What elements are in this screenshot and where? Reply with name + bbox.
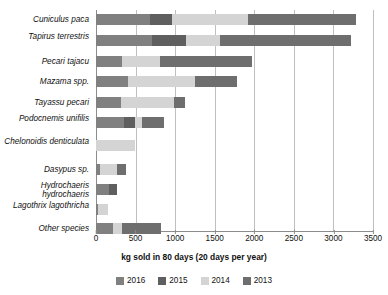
bar-segment-2014 [172,14,248,25]
bar-segment-2016 [96,14,150,25]
stacked-bar [96,164,126,175]
bar-segment-2016 [96,76,128,87]
bar-row [96,117,373,128]
bar-row [96,184,373,195]
category-label: Chelonoidis denticulata [0,137,89,146]
bar-segment-2016 [96,35,152,46]
legend-item-2015[interactable]: 2015 [158,276,187,285]
x-tick-labels: 0500100015002000250030003500 [0,234,388,248]
bar-segment-2014 [122,56,160,67]
x-tick-0: 0 [94,234,99,243]
stacked-bar-chart: Cuniculus pacaTapirus terrestrisPecari t… [0,0,388,295]
bar-segment-2016 [96,117,124,128]
tick-mark [175,230,176,234]
stacked-bar [96,14,356,25]
bar-segment-2014 [100,164,117,175]
x-axis-title: kg sold in 80 days (20 days per year) [0,252,388,262]
tick-mark [254,230,255,234]
chart-legend: 2016201520142013 [0,276,388,285]
stacked-bar [96,56,252,67]
bar-segment-2016 [96,56,122,67]
tick-mark [215,230,216,234]
bar-segment-2015 [152,35,186,46]
tick-mark [333,230,334,234]
stacked-bar [96,223,161,234]
bar-segment-2016 [96,97,121,108]
x-tick-1000: 1000 [166,234,184,243]
bar-rows [96,10,373,232]
bar-segment-2013 [195,76,238,87]
bar-segment-2013 [220,35,351,46]
bar-row [96,223,373,234]
bar-row [96,140,373,151]
bar-segment-2014 [98,204,108,215]
legend-label: 2014 [212,276,230,285]
category-label: Cuniculus paca [0,15,89,24]
bar-segment-2015 [109,184,117,195]
x-tick-1500: 1500 [206,234,224,243]
stacked-bar [96,204,108,215]
bar-segment-2014 [128,76,195,87]
category-label: Other species [0,224,89,233]
legend-swatch-2016 [116,277,124,285]
bar-segment-2014 [121,97,173,108]
category-label: Hydrochaeris hydrochaeris [0,181,89,199]
bar-segment-2013 [248,14,356,25]
legend-swatch-2015 [158,277,166,285]
category-axis-labels: Cuniculus pacaTapirus terrestrisPecari t… [0,10,93,232]
legend-label: 2015 [169,276,187,285]
legend-swatch-2013 [243,277,251,285]
legend-swatch-2014 [201,277,209,285]
category-label: Lagothrix lagothricha [0,201,89,210]
category-label: Mazama spp. [0,77,89,86]
bar-row [96,76,373,87]
bar-segment-2014 [186,35,220,46]
x-tick-2000: 2000 [245,234,263,243]
bar-segment-2013 [142,117,163,128]
bar-segment-2014 [96,140,135,151]
stacked-bar [96,76,237,87]
stacked-bar [96,117,164,128]
bar-segment-2016 [96,184,109,195]
category-label: Podocnemis unifilis [0,114,89,123]
legend-item-2014[interactable]: 2014 [201,276,230,285]
category-label: Tayassu pecari [0,98,89,107]
bar-row [96,97,373,108]
tick-mark [373,230,374,234]
bar-row [96,14,373,25]
x-tick-3500: 3500 [364,234,382,243]
x-tick-500: 500 [129,234,143,243]
bar-row [96,35,373,46]
bar-segment-2015 [150,14,172,25]
legend-label: 2016 [127,276,145,285]
bar-segment-2013 [174,97,186,108]
category-label: Tapirus terrestris [0,32,89,41]
tick-mark [136,230,137,234]
bar-segment-2015 [124,117,135,128]
stacked-bar [96,140,135,151]
bar-row [96,164,373,175]
tick-mark [294,230,295,234]
bar-segment-2014 [113,223,122,234]
bar-segment-2013 [122,223,161,234]
category-label: Dasypus sp. [0,165,89,174]
stacked-bar [96,35,351,46]
bar-row [96,56,373,67]
bar-row [96,204,373,215]
gridline-3500 [373,10,374,232]
legend-item-2013[interactable]: 2013 [243,276,272,285]
bar-segment-2013 [117,164,127,175]
bar-segment-2016 [96,223,113,234]
x-tick-2500: 2500 [285,234,303,243]
bar-segment-2013 [160,56,252,67]
stacked-bar [96,97,185,108]
legend-item-2016[interactable]: 2016 [116,276,145,285]
category-label: Pecari tajacu [0,57,89,66]
legend-label: 2013 [254,276,272,285]
tick-mark [96,230,97,234]
stacked-bar [96,184,117,195]
x-tick-3000: 3000 [324,234,342,243]
plot-area [96,10,373,232]
bar-segment-2014 [135,117,142,128]
